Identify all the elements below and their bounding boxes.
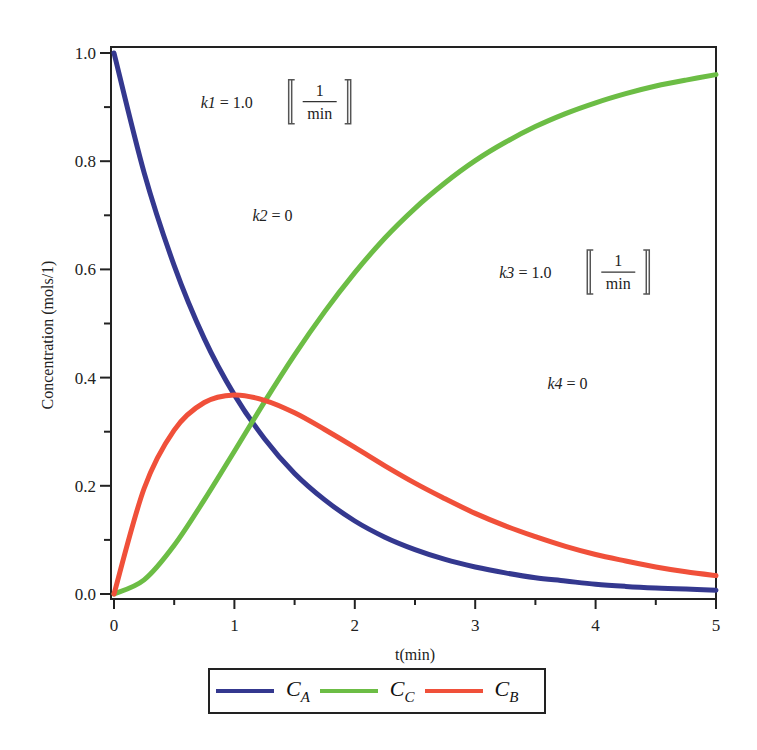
x-tick-label: 3: [471, 616, 480, 635]
x-tick-label: 4: [591, 616, 600, 635]
x-tick-label: 2: [351, 616, 360, 635]
series-line-c-b: [114, 395, 716, 594]
legend-swatch: [320, 689, 378, 693]
y-axis-title: Concentration (mols/1): [39, 261, 57, 410]
y-tick-label: 0.2: [75, 477, 96, 496]
x-axis-title: t(min): [395, 646, 435, 664]
legend-swatch: [425, 689, 483, 693]
annotation-layer: k1 = 1.01mink2 = 0k3 = 1.01mink4 = 0: [201, 80, 650, 392]
y-tick-label: 0.8: [75, 152, 96, 171]
svg-text:k3 = 1.0: k3 = 1.0: [499, 264, 551, 281]
x-axis: 012345: [110, 599, 721, 635]
svg-text:k2 = 0: k2 = 0: [252, 207, 292, 224]
x-tick-label: 1: [230, 616, 239, 635]
legend-swatch: [216, 689, 274, 693]
svg-text:k4 = 0: k4 = 0: [547, 375, 587, 392]
y-tick-label: 0.4: [75, 369, 97, 388]
series-layer: [114, 53, 716, 594]
annotation-k2: k2 = 0: [252, 207, 292, 224]
x-tick-label: 0: [110, 616, 119, 635]
svg-text:min: min: [606, 275, 631, 292]
legend: CACCCB: [208, 668, 546, 714]
svg-text:1: 1: [614, 252, 622, 269]
legend-item-c-b: CB: [425, 676, 519, 706]
legend-label: CA: [286, 676, 310, 706]
annotation-k4: k4 = 0: [547, 375, 587, 392]
y-tick-label: 1.0: [75, 44, 96, 63]
series-line-c-a: [114, 53, 716, 590]
legend-label: CC: [390, 676, 415, 706]
legend-item-c-a: CA: [216, 676, 310, 706]
chart: 0.00.20.40.60.81.0 012345 k1 = 1.01mink2…: [0, 0, 757, 750]
x-tick-label: 5: [712, 616, 721, 635]
annotation-k1: k1 = 1.01min: [201, 80, 351, 124]
legend-item-c-c: CC: [320, 676, 415, 706]
annotation-k3: k3 = 1.01min: [499, 250, 649, 294]
svg-text:min: min: [307, 105, 332, 122]
legend-label: CB: [495, 676, 519, 706]
y-axis: 0.00.20.40.60.81.0: [75, 44, 111, 604]
svg-text:k1 = 1.0: k1 = 1.0: [201, 94, 253, 111]
y-tick-label: 0.0: [75, 585, 96, 604]
y-tick-label: 0.6: [75, 260, 96, 279]
svg-text:1: 1: [316, 82, 324, 99]
plot-frame: [111, 47, 716, 599]
